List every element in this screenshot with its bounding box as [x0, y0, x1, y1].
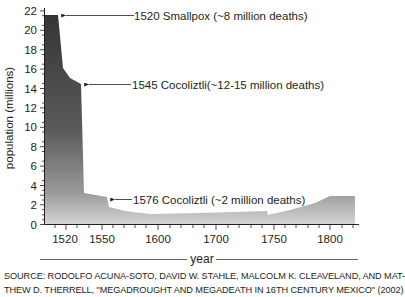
annotation-smallpox: 1520 Smallpox (~8 million deaths): [66, 10, 308, 22]
source-citation: SOURCE: RODOLFO ACUNA-SOTO, DAVID W. STA…: [4, 269, 364, 297]
annotation-cocoliztli-1545: 1545 Cocoliztli(~12-15 million deaths): [89, 79, 324, 91]
x-tick-1520: 1520: [52, 233, 78, 245]
y-tick-12: 12: [24, 102, 37, 114]
y-tick-22: 22: [24, 5, 37, 17]
y-axis: 0 2 4 6 8 10 12 14 16 18 20 22 populatio…: [3, 5, 45, 231]
y-tick-16: 16: [24, 63, 37, 75]
x-axis-label: year: [190, 252, 213, 266]
y-tick-6: 6: [31, 160, 37, 172]
svg-text:1545 Cocoliztli(~12-15 million: 1545 Cocoliztli(~12-15 million deaths): [132, 79, 324, 91]
y-axis-label: population (millions): [3, 67, 15, 169]
x-tick-1750: 1750: [261, 233, 287, 245]
x-tick-1600: 1600: [145, 233, 171, 245]
annotation-cocoliztli-1576: 1576 Cocoliztli (~2 million deaths): [115, 194, 305, 206]
y-tick-8: 8: [31, 141, 37, 153]
y-tick-20: 20: [24, 24, 37, 36]
x-tick-1700: 1700: [203, 233, 229, 245]
y-tick-10: 10: [24, 121, 37, 133]
svg-text:1520 Smallpox (~8 million deat: 1520 Smallpox (~8 million deaths): [134, 10, 308, 22]
y-tick-14: 14: [24, 83, 37, 95]
y-tick-4: 4: [31, 180, 38, 192]
x-axis: 1520 1550 1600 1700 1750 1800 year: [40, 225, 359, 267]
x-tick-1550: 1550: [89, 233, 115, 245]
source-line-1: SOURCE: RODOLFO ACUNA-SOTO, DAVID W. STA…: [4, 269, 364, 283]
y-tick-0: 0: [31, 219, 37, 231]
y-tick-18: 18: [24, 44, 37, 56]
x-tick-1800: 1800: [317, 233, 343, 245]
svg-text:1576 Cocoliztli (~2 million de: 1576 Cocoliztli (~2 million deaths): [133, 194, 305, 206]
y-tick-2: 2: [31, 199, 37, 211]
source-line-2: THEW D. THERRELL, "MEGADROUGHT AND MEGAD…: [4, 283, 364, 297]
